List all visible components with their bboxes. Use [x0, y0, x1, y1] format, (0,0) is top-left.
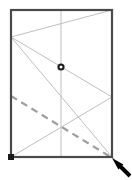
bottom-left-square-node	[8, 154, 14, 160]
center-node-circle-inner	[60, 66, 63, 69]
geometric-diagram	[0, 0, 132, 180]
figure-container	[0, 0, 132, 180]
